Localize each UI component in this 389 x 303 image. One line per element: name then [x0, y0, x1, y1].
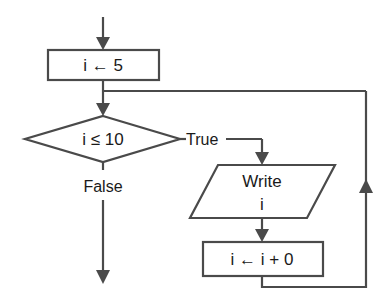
- arrowhead-down-icon: [255, 229, 269, 242]
- arrowhead-down-icon: [96, 103, 110, 116]
- arrowhead-down-icon: [96, 270, 110, 284]
- update-label: i ← i + 0: [231, 250, 294, 269]
- true-label: True: [186, 131, 218, 148]
- arrowhead-up-icon: [359, 179, 373, 193]
- init-label: i ← 5: [83, 56, 123, 75]
- condition-label: i ≤ 10: [82, 130, 123, 149]
- write-variable-label: i: [260, 195, 264, 214]
- arrowhead-down-icon: [255, 152, 269, 165]
- write-label: Write: [242, 172, 281, 191]
- false-label: False: [83, 178, 122, 195]
- flowchart-canvas: i ← 5 i ≤ 10 True False Write i i ← i + …: [0, 0, 389, 303]
- arrowhead-down-icon: [96, 37, 110, 50]
